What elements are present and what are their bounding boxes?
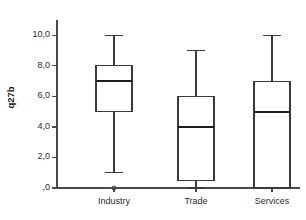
box-trade [178, 51, 214, 188]
axis-ticks-group [52, 35, 272, 192]
box-series-group [96, 35, 290, 190]
y-tick-label: 4,0 [2, 121, 50, 131]
x-tick-label-services: Services [227, 196, 306, 206]
y-tick-label: 6,0 [2, 90, 50, 100]
box-industry [96, 35, 132, 190]
box-services [254, 35, 290, 188]
x-tick-label-industry: Industry [69, 196, 159, 206]
y-tick-label: 2,0 [2, 151, 50, 161]
box-rectangle [96, 66, 132, 112]
y-tick-label: 8,0 [2, 60, 50, 70]
y-tick-label: 10,0 [2, 29, 50, 39]
boxplot-figure: q27b 10,08,06,04,02,0,0 IndustryTradeSer… [0, 0, 306, 220]
box-rectangle [178, 96, 214, 180]
y-tick-label: ,0 [2, 182, 50, 192]
box-rectangle [254, 81, 290, 188]
